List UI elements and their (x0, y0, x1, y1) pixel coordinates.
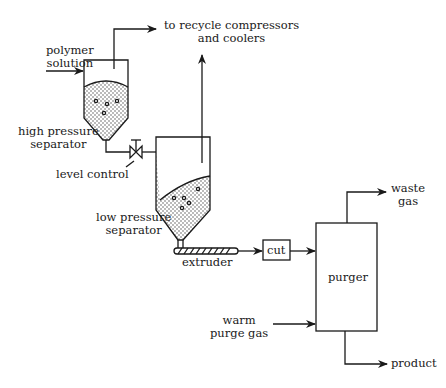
level-control-valve (126, 140, 156, 167)
label-waste-gas: waste gas (391, 182, 425, 208)
extruder-screw (174, 248, 238, 254)
label-low-pressure-separator: low pressure separator (96, 211, 171, 237)
process-flow-diagram: polymer solution to recycle compressors … (0, 0, 446, 388)
label-high-pressure-separator: high pressure separator (18, 125, 99, 151)
label-purger: purger (328, 271, 368, 284)
label-cut: cut (267, 244, 285, 257)
label-extruder: extruder (182, 256, 232, 269)
label-warm-purge-gas: warm purge gas (210, 314, 268, 340)
label-level-control: level control (56, 168, 129, 181)
label-polymer-solution: polymer solution (46, 44, 94, 70)
label-product: product (391, 357, 437, 370)
label-recycle: to recycle compressors and coolers (164, 19, 299, 45)
